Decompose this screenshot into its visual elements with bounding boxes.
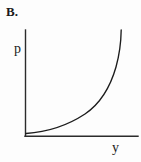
plot-area <box>0 0 141 162</box>
data-curve <box>26 30 121 134</box>
figure-panel: B. p y <box>0 0 141 162</box>
